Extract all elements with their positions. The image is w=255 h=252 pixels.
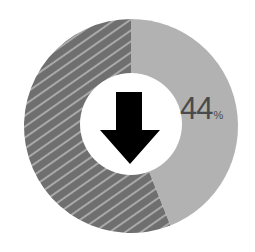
percentage-unit: % [213, 109, 223, 121]
percentage-label: 44% [180, 91, 223, 127]
percentage-value: 44 [180, 91, 212, 126]
